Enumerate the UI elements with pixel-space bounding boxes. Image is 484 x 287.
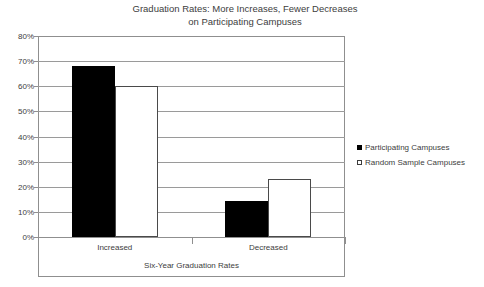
y-axis-tick-label: 70%: [4, 57, 34, 66]
y-axis-tick-label: 0%: [4, 233, 34, 242]
bar-chart: Graduation Rates: More Increases, Fewer …: [0, 0, 484, 287]
legend-item-label: Random Sample Campuses: [365, 158, 465, 167]
bar-decreased-participating-campuses: [225, 201, 268, 237]
chart-title: Graduation Rates: More Increases, Fewer …: [60, 3, 430, 28]
y-axis-tick-label: 80%: [4, 32, 34, 41]
y-axis-tick-label: 20%: [4, 182, 34, 191]
legend-item-participating-campuses[interactable]: Participating Campuses: [357, 140, 481, 155]
y-axis: 80%70%60%50%40%30%20%10%0%: [0, 0, 34, 287]
bar-increased-random-sample-campuses: [115, 86, 158, 237]
x-axis-tick: [345, 237, 346, 244]
legend-swatch-icon: [357, 160, 362, 165]
plot-area: [38, 36, 345, 237]
legend-item-label: Participating Campuses: [365, 143, 449, 152]
y-axis-tick-label: 40%: [4, 132, 34, 141]
y-axis-tick-label: 30%: [4, 157, 34, 166]
x-axis-title: Six-Year Graduation Rates: [38, 261, 345, 270]
y-axis-tick-label: 60%: [4, 82, 34, 91]
chart-legend: Participating CampusesRandom Sample Camp…: [357, 140, 481, 170]
chart-outer-frame: [38, 237, 345, 277]
y-axis-tick-label: 50%: [4, 107, 34, 116]
gridline: [38, 61, 345, 62]
gridline: [38, 36, 345, 37]
bar-decreased-random-sample-campuses: [268, 179, 311, 237]
y-axis-tick-label: 10%: [4, 207, 34, 216]
legend-item-random-sample-campuses[interactable]: Random Sample Campuses: [357, 155, 481, 170]
x-axis-label-increased: Increased: [97, 243, 132, 252]
x-axis-label-decreased: Decreased: [249, 243, 288, 252]
bar-increased-participating-campuses: [72, 66, 115, 237]
legend-swatch-icon: [357, 145, 362, 150]
